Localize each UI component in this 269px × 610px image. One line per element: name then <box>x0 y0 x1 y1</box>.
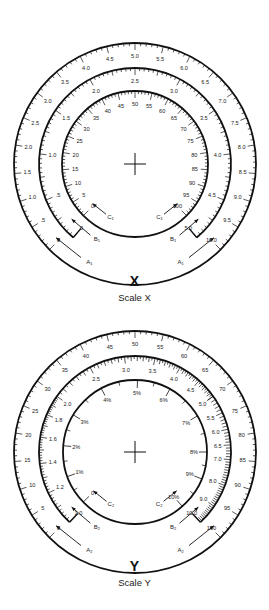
scale-label: 5 <box>41 505 44 511</box>
scale-label: 6.0 <box>212 429 220 435</box>
scale-label: 3% <box>80 419 88 425</box>
arrow-label: B2 <box>94 524 101 532</box>
arrow-label: C2 <box>156 501 163 509</box>
scale-label: 5.0 <box>199 401 207 407</box>
scale-label: 1% <box>76 469 84 475</box>
scale-label: 6.5 <box>201 79 209 85</box>
scale-label: 5.0 <box>131 53 139 59</box>
scale-label: 7% <box>182 420 190 426</box>
scale-label: 5.5 <box>156 56 164 62</box>
scale-label: 25 <box>76 138 82 144</box>
scale-label: 55 <box>146 103 152 109</box>
scale-label: 10 <box>29 482 35 488</box>
scale-label: 1.0 <box>49 152 57 158</box>
scale-label: 45 <box>107 344 113 350</box>
scale-label: 1.2 <box>56 484 64 490</box>
scale-label: 3.0 <box>170 88 178 94</box>
scale-label: 2.0 <box>24 144 32 150</box>
dial-y-letter: Y <box>0 558 269 574</box>
scale-label: 60 <box>159 108 165 114</box>
scale-label: 70 <box>180 126 186 132</box>
direction-arrow-c2-left: C2 <box>93 491 115 508</box>
dial-scale-x: 0.51.01.52.02.53.03.54.04.55.05.56.06.57… <box>14 43 256 285</box>
direction-arrow-a1-left: A1 <box>56 238 93 267</box>
dial-scale-y: 0510152025303540455055606570758085909510… <box>14 331 256 573</box>
scale-label: 65 <box>202 367 208 373</box>
scale-label: 9.5 <box>223 217 231 223</box>
arrow-label: A2 <box>86 547 93 555</box>
scale-label: 9.0 <box>200 496 208 502</box>
scale-label: 2.0 <box>92 88 100 94</box>
scale-label: 90 <box>189 180 195 186</box>
dial-x-letter: X <box>0 273 269 289</box>
scale-label: 85 <box>240 457 246 463</box>
scale-label: 75 <box>187 138 193 144</box>
scale-label: 1.8 <box>55 417 63 423</box>
scale-label: 6% <box>160 397 168 403</box>
direction-arrow-a1-right: A1 <box>178 238 214 267</box>
scale-label: 30 <box>83 126 89 132</box>
scale-label: 30 <box>45 386 51 392</box>
direction-arrow-c1-right: C1 <box>156 204 177 222</box>
scale-label: 6.0 <box>180 65 188 71</box>
direction-arrow-b2-right: B2 <box>170 507 198 531</box>
center-crosshair-icon <box>124 153 146 175</box>
scale-label: 15 <box>72 166 78 172</box>
scale-label: 4.5 <box>208 192 216 198</box>
scale-label: 7.0 <box>214 456 222 462</box>
scale-label: 5% <box>133 390 141 396</box>
scale-label: 75 <box>232 408 238 414</box>
scale-label: 3.5 <box>148 368 156 374</box>
scale-label: 5.5 <box>207 415 215 421</box>
scale-label: 1.6 <box>49 436 57 442</box>
arrow-label: A1 <box>178 259 185 267</box>
scale-label: 20 <box>25 432 31 438</box>
scale-label: 2.5 <box>92 376 100 382</box>
scale-label: 80 <box>239 432 245 438</box>
scale-label: 25 <box>32 408 38 414</box>
arrow-label: B1 <box>94 236 101 244</box>
direction-arrow-a2-left: A2 <box>56 526 93 555</box>
scale-ring-b2: 1.01.21.41.61.82.02.53.03.54.04.55.05.56… <box>39 356 231 522</box>
scale-label: 20 <box>73 152 79 158</box>
center-crosshair-icon <box>124 441 146 463</box>
scale-label: 4.0 <box>170 376 178 382</box>
scale-label: 6.5 <box>214 443 222 449</box>
scale-label: 8.5 <box>239 169 247 175</box>
scale-label: 95 <box>183 192 189 198</box>
direction-arrow-b2-left: B2 <box>72 507 101 531</box>
scale-label: 60 <box>181 353 187 359</box>
scale-label: 7.0 <box>218 98 226 104</box>
scale-label: 8.0 <box>238 144 246 150</box>
scale-label: 1.5 <box>23 169 31 175</box>
scale-label: 55 <box>157 344 163 350</box>
scale-label: 4.5 <box>106 56 114 62</box>
direction-arrow-b1-right: B1 <box>170 219 198 243</box>
scale-label: 4.0 <box>214 152 222 158</box>
scale-label: 70 <box>219 386 225 392</box>
scale-label: .5 <box>41 217 46 223</box>
scale-label: 1.5 <box>62 115 70 121</box>
scale-label: 15 <box>24 457 30 463</box>
scale-label: 2.0 <box>64 401 72 407</box>
arrow-label: A2 <box>178 547 185 555</box>
scale-label: 5 <box>82 192 85 198</box>
scale-label: 9.0 <box>234 194 242 200</box>
scale-label: 1.0 <box>28 194 36 200</box>
scale-label: 85 <box>192 166 198 172</box>
scale-label: 4% <box>103 397 111 403</box>
scale-label: 35 <box>93 115 99 121</box>
scale-label: 95 <box>224 505 230 511</box>
scale-label: 65 <box>171 115 177 121</box>
arrow-label: C1 <box>156 214 163 222</box>
scale-label: 3.5 <box>61 79 69 85</box>
dial-y-caption: Scale Y <box>0 577 269 588</box>
scale-label: 2% <box>72 444 80 450</box>
arrow-label: C1 <box>107 214 114 222</box>
scale-label: 40 <box>83 353 89 359</box>
scale-label: 35 <box>62 367 68 373</box>
scale-label: 3.0 <box>44 98 52 104</box>
direction-arrow-a2-right: A2 <box>178 526 214 555</box>
scale-label: 80 <box>191 152 197 158</box>
scale-label: 4.0 <box>82 65 90 71</box>
